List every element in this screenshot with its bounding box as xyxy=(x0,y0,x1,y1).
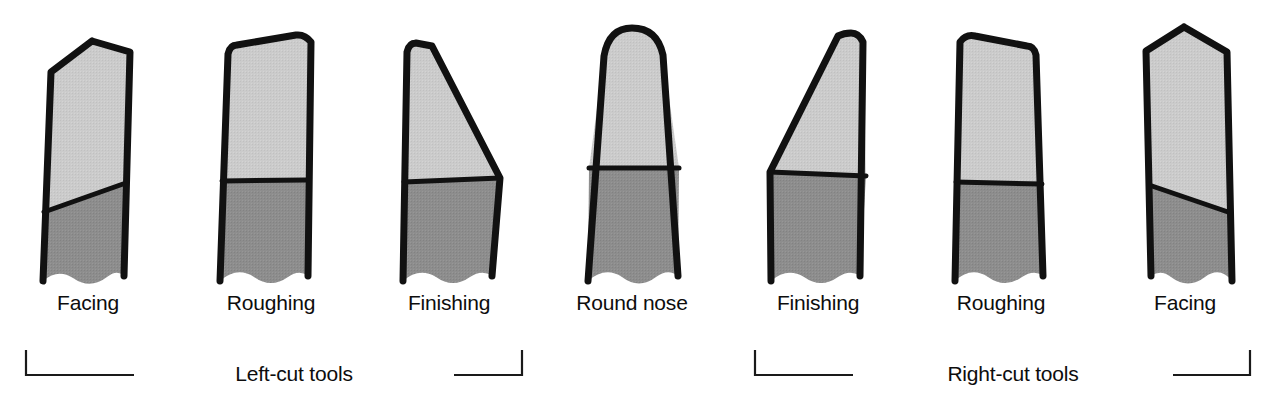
tool-shank-body xyxy=(955,182,1043,283)
tool-carbide-tip-body xyxy=(956,36,1042,184)
tool-4-round-nose xyxy=(588,28,679,284)
tool-tip-shank-seam-line xyxy=(956,182,1042,184)
tool-shank-body xyxy=(220,180,308,283)
tool-5-right-cut xyxy=(770,33,866,283)
tool-shank-body xyxy=(588,168,679,284)
tool-3-left-cut xyxy=(403,43,500,283)
tool-2-left-cut xyxy=(220,35,311,283)
left-cut-group-label: Left-cut tools xyxy=(134,362,454,386)
tool-6-right-cut xyxy=(955,36,1043,283)
tool-carbide-tip-body xyxy=(222,35,311,181)
tool-shank-body xyxy=(770,172,866,283)
tool-7-right-cut xyxy=(1146,27,1232,284)
tool-shank-body xyxy=(403,178,500,283)
tool-label-7: Facing xyxy=(1035,291,1274,315)
tool-carbide-tip-body xyxy=(770,33,866,176)
cutting-tool-shapes-figure: FacingRoughingFinishingRound noseFinishi… xyxy=(0,0,1274,400)
tool-1-left-cut xyxy=(43,41,130,284)
tools-illustration xyxy=(0,0,1274,400)
tool-carbide-tip-body xyxy=(1146,27,1231,213)
tool-carbide-tip-body xyxy=(404,43,500,182)
right-cut-group-label: Right-cut tools xyxy=(853,362,1173,386)
tool-tip-shank-seam-line xyxy=(222,180,307,181)
